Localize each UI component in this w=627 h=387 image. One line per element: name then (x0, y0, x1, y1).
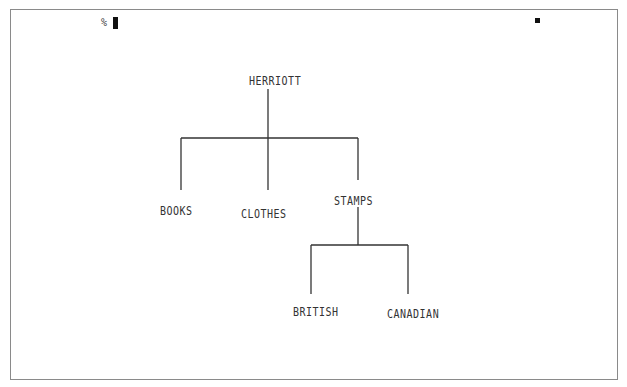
node-british: BRITISH (293, 305, 339, 319)
node-stamps: STAMPS (334, 194, 373, 208)
node-clothes: CLOTHES (241, 207, 287, 221)
tree-connectors (0, 0, 627, 387)
node-root: HERRIOTT (249, 74, 301, 88)
node-books: BOOKS (160, 204, 193, 218)
node-canadian: CANADIAN (387, 307, 439, 321)
